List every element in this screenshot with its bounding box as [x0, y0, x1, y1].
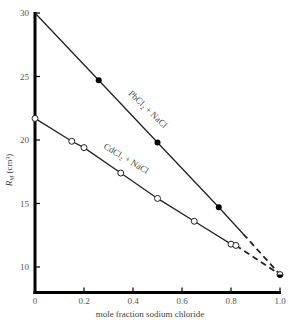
- y-axis-title: RM (cm³): [4, 154, 15, 187]
- filled-circle-marker: [216, 204, 222, 210]
- open-circle-marker: [155, 195, 161, 201]
- x-tick-label: 0.4: [127, 296, 139, 306]
- y-title-unit: (cm³): [4, 154, 14, 176]
- series-label-cdcl2: CdCl₂ + NaCl: [102, 141, 151, 176]
- x-tick-label: 1.0: [274, 296, 286, 306]
- x-tick-label: 0.2: [78, 296, 89, 306]
- filled-circle-marker: [96, 77, 102, 83]
- x-axis-title: mole fraction sodium chloride: [96, 309, 205, 319]
- series-line-0: [35, 13, 243, 234]
- open-circle-marker: [32, 115, 38, 121]
- open-circle-marker: [81, 145, 87, 151]
- chart: 101520253000.20.40.60.81.0 PbCl₂ + NaCl …: [0, 0, 292, 325]
- series-line-1: [35, 118, 236, 245]
- x-tick-label: 0: [33, 296, 38, 306]
- series-label-pbcl2: PbCl₂ + NaCl: [127, 88, 170, 130]
- y-tick-label: 25: [20, 72, 30, 82]
- y-tick-label: 30: [20, 8, 30, 18]
- x-tick-label: 0.8: [225, 296, 237, 306]
- y-tick-label: 20: [20, 135, 30, 145]
- open-circle-marker: [233, 242, 239, 248]
- y-tick-label: 10: [20, 262, 30, 272]
- filled-circle-marker: [155, 140, 161, 146]
- x-tick-label: 0.6: [176, 296, 188, 306]
- y-tick-label: 15: [20, 199, 30, 209]
- open-circle-marker: [69, 138, 75, 144]
- open-circle-marker: [118, 170, 124, 176]
- data-markers: [32, 77, 283, 277]
- ticks: 101520253000.20.40.60.81.0: [20, 8, 286, 306]
- open-circle-marker: [191, 218, 197, 224]
